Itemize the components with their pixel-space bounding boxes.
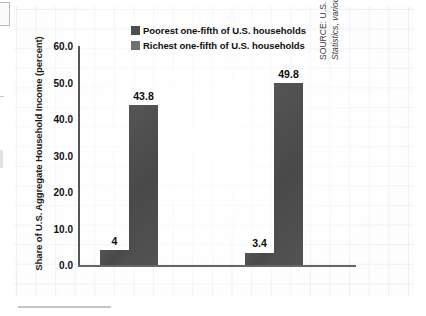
scan-artifact-corner [0,2,10,26]
y-tick-label: 10.0 [54,223,73,234]
x-axis-line [78,265,356,267]
bar-1967-poorest [100,250,129,265]
bottom-rule [18,306,111,308]
y-tick-label: 20.0 [54,187,73,198]
bar-2003-poorest [245,253,274,265]
y-tick-label: 0.0 [59,260,73,271]
source-line-2: Statistics, various years, Geneva, Switz… [330,0,342,60]
legend-label-poorest: Poorest one-fifth of U.S. households [143,25,306,36]
scan-artifact-left-bar [0,150,3,168]
bar-label-2003-poorest: 3.4 [252,237,267,249]
y-tick-label: 40.0 [54,114,73,125]
scan-artifact-left-mark [0,96,4,97]
bar-label-1967-poorest: 4 [112,235,118,247]
y-tick-label: 30.0 [54,150,73,161]
bar-1967-richest [129,105,158,265]
legend-label-richest: Richest one-fifth of U.S. households [143,40,305,51]
legend-swatch-icon [131,41,140,50]
source-note: SOURCE: U.S. Census Bureau, http://www.c… [318,0,341,60]
legend-item-poorest: Poorest one-fifth of U.S. households [131,25,306,36]
plot-area: 0.0 10.0 20.0 30.0 40.0 50.0 60.0 4 43.8… [78,46,356,265]
y-tick-label: 60.0 [54,41,73,52]
source-line-1: SOURCE: U.S. Census Bureau, http://www.c… [318,0,330,60]
chart-legend: Poorest one-fifth of U.S. households Ric… [131,25,306,55]
y-axis-title: Share of U.S. Aggregate Household Income… [33,34,44,274]
bar-2003-richest [274,83,303,265]
legend-swatch-icon [131,26,140,35]
bar-label-2003-richest: 49.8 [278,68,298,80]
y-tick-label: 50.0 [54,77,73,88]
bar-label-1967-richest: 43.8 [133,90,153,102]
bar-chart-figure: Share of U.S. Aggregate Household Income… [0,0,426,316]
legend-item-richest: Richest one-fifth of U.S. households [131,40,306,51]
